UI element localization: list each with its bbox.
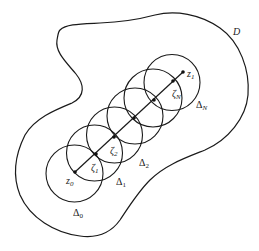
point-zeta-2 — [112, 135, 116, 139]
diagram-canvas: D z1 ζN ΔN ζ2 Δ2 ζ1 Δ1 z0 Δ0 — [0, 0, 259, 251]
label-delta-0: Δ0 — [73, 207, 83, 220]
label-delta-2: Δ2 — [139, 157, 149, 170]
point-z1 — [181, 70, 185, 74]
point-zeta-n — [171, 79, 175, 83]
label-zeta-1: ζ1 — [91, 162, 99, 175]
point-zeta-4 — [152, 98, 156, 102]
label-zeta-n: ζN — [172, 88, 181, 101]
label-delta-n: ΔN — [196, 99, 207, 112]
domain-boundary — [15, 13, 248, 237]
point-zeta-3 — [132, 116, 136, 120]
label-z0: z0 — [65, 175, 74, 188]
label-z1: z1 — [186, 68, 194, 81]
point-zeta-1 — [94, 152, 98, 156]
label-domain-d: D — [232, 26, 241, 37]
label-zeta-2: ζ2 — [110, 145, 118, 158]
label-delta-1: Δ1 — [116, 176, 126, 189]
point-z0 — [73, 170, 77, 174]
path-z0-z1 — [75, 72, 183, 172]
domain-diagram: D z1 ζN ΔN ζ2 Δ2 ζ1 Δ1 z0 Δ0 — [0, 0, 259, 251]
